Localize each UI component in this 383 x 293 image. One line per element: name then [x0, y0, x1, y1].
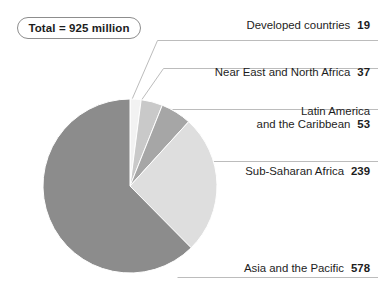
callout-label-asia-pacific: Asia and the Pacific578 — [244, 262, 370, 275]
callout-text-asia: Asia and the Pacific — [244, 262, 344, 274]
callout-value-neareast: 37 — [357, 66, 370, 78]
pie-layer — [0, 0, 383, 293]
callout-text-latin-line2: and the Caribbean — [257, 118, 351, 130]
pie-chart-figure: Total = 925 million Developed countries1… — [0, 0, 383, 293]
total-badge-label: Total = 925 million — [28, 22, 129, 34]
pie-slices — [43, 99, 217, 273]
callout-value-subsaharan: 239 — [351, 165, 370, 177]
callout-value-developed: 19 — [357, 19, 370, 31]
callout-label-developed-countries: Developed countries19 — [246, 19, 370, 32]
total-badge: Total = 925 million — [17, 17, 141, 39]
callout-text-subsaharan: Sub-Saharan Africa — [245, 165, 344, 177]
callout-text-developed: Developed countries — [246, 19, 350, 31]
callout-label-latin-america-caribbean: Latin America and the Caribbean53 — [257, 105, 370, 132]
callout-label-sub-saharan-africa: Sub-Saharan Africa239 — [245, 165, 370, 178]
callout-value-asia: 578 — [351, 262, 370, 274]
callout-value-latin: 53 — [357, 118, 370, 130]
callout-label-near-east-north-africa: Near East and North Africa37 — [215, 66, 370, 79]
callout-text-neareast: Near East and North Africa — [215, 66, 351, 78]
callout-text-latin-line1: Latin America — [257, 105, 370, 118]
